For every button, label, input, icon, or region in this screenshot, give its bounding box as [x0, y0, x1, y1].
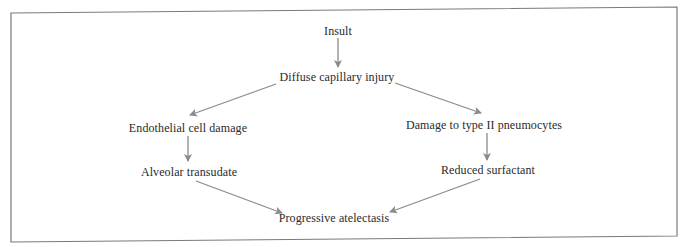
node-damage-type-ii-pneumocytes: Damage to type II pneumocytes: [406, 119, 562, 131]
arrow-surfactant-to-atelectasis: [390, 179, 480, 212]
node-progressive-atelectasis: Progressive atelectasis: [279, 212, 390, 224]
arrow-diffuse-to-type2: [395, 83, 481, 113]
diagram-border: [11, 7, 677, 242]
node-reduced-surfactant: Reduced surfactant: [441, 164, 535, 176]
arrow-alveolar-to-atelectasis: [196, 181, 282, 213]
node-diffuse-capillary-injury: Diffuse capillary injury: [280, 71, 395, 83]
node-endothelial-cell-damage: Endothelial cell damage: [129, 122, 247, 134]
diagram-canvas: Insult Diffuse capillary injury Endothel…: [0, 0, 685, 247]
node-insult: Insult: [324, 25, 352, 37]
arrow-diffuse-to-endothelial: [190, 84, 276, 115]
node-alveolar-transudate: Alveolar transudate: [141, 166, 237, 178]
